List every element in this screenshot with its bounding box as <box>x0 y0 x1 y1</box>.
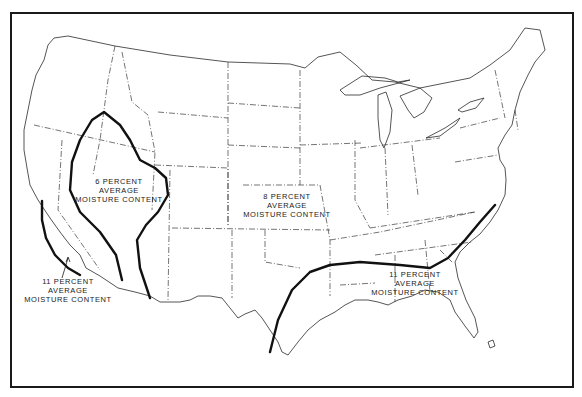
state-borders <box>34 46 518 302</box>
zone-8-line-1: 8 PERCENT <box>263 192 311 201</box>
lake-superior <box>340 76 410 95</box>
zone-11-southeast-line-1: 11 PERCENT <box>389 270 441 279</box>
zone-11-west-label: 11 PERCENT AVERAGE MOISTURE CONTENT <box>24 277 112 304</box>
lake-huron <box>400 88 432 118</box>
zone-11-southeast-label: 11 PERCENT AVERAGE MOISTURE CONTENT <box>371 270 459 297</box>
zone-11-west-boundary <box>42 201 80 275</box>
zone-6-line-3: MOISTURE CONTENT <box>75 195 163 204</box>
zone-11-west-pointer-head <box>66 257 70 262</box>
lake-okeechobee <box>488 340 495 348</box>
lake-ontario <box>458 98 484 112</box>
zone-11-southeast-boundary <box>270 205 495 352</box>
zone-8-line-2: AVERAGE <box>267 201 307 210</box>
zone-11-west-line-1: 11 PERCENT <box>42 277 94 286</box>
zone-11-west-line-2: AVERAGE <box>48 286 88 295</box>
zone-11-west-line-3: MOISTURE CONTENT <box>24 295 112 304</box>
moisture-content-map: 6 PERCENT AVERAGE MOISTURE CONTENT 8 PER… <box>0 0 582 397</box>
zone-11-southeast-line-2: AVERAGE <box>395 279 435 288</box>
zone-8-line-3: MOISTURE CONTENT <box>243 210 331 219</box>
zone-6-line-2: AVERAGE <box>99 186 139 195</box>
zone-11-southeast-line-3: MOISTURE CONTENT <box>371 288 459 297</box>
lake-erie <box>426 118 460 138</box>
zone-6-line-1: 6 PERCENT <box>95 177 143 186</box>
zone-6-boundary <box>70 112 168 298</box>
lake-michigan <box>378 92 392 148</box>
zone-8-label: 8 PERCENT AVERAGE MOISTURE CONTENT <box>243 192 331 219</box>
zone-6-label: 6 PERCENT AVERAGE MOISTURE CONTENT <box>75 177 163 204</box>
